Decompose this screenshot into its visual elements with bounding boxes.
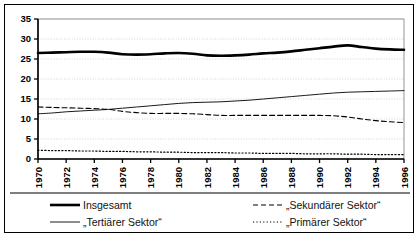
svg-text:1970: 1970	[33, 167, 44, 188]
svg-text:1974: 1974	[89, 166, 100, 188]
svg-text:25: 25	[20, 53, 31, 64]
svg-text:1984: 1984	[230, 166, 241, 188]
legend-label-3: „Primärer Sektor“	[286, 216, 367, 228]
y-axis-tick-labels: 05101520253035	[20, 13, 31, 164]
plot-area-frame	[38, 19, 404, 159]
svg-text:1992: 1992	[342, 167, 353, 188]
svg-text:1976: 1976	[117, 167, 128, 188]
data-series-group	[38, 45, 404, 154]
legend-label-1: „Sekundärer Sektor“	[286, 199, 381, 211]
svg-text:0: 0	[26, 153, 31, 164]
svg-text:1988: 1988	[286, 167, 297, 188]
svg-text:30: 30	[20, 33, 31, 44]
chart-legend: Insgesamt„Sekundärer Sektor“„Tertiärer S…	[10, 193, 410, 228]
svg-text:1994: 1994	[370, 166, 381, 188]
svg-text:20: 20	[20, 73, 31, 84]
legend-label-2: „Tertiärer Sektor“	[83, 216, 162, 228]
svg-text:35: 35	[20, 13, 31, 24]
svg-text:1980: 1980	[173, 167, 184, 188]
svg-text:1978: 1978	[145, 167, 156, 188]
chart-svg: 05101520253035 1970197219741976197819801…	[0, 0, 420, 239]
svg-text:1982: 1982	[202, 167, 213, 188]
gridlines-group	[38, 19, 404, 139]
svg-text:10: 10	[20, 113, 31, 124]
svg-text:1972: 1972	[61, 167, 72, 188]
series-line-3	[38, 150, 404, 154]
svg-text:1986: 1986	[258, 167, 269, 188]
series-line-0	[38, 45, 404, 55]
svg-text:15: 15	[20, 93, 31, 104]
svg-text:1990: 1990	[314, 167, 325, 188]
axis-lines	[38, 19, 404, 159]
svg-text:1996: 1996	[399, 167, 410, 188]
x-axis-tick-labels: 1970197219741976197819801982198419861988…	[33, 166, 410, 188]
svg-text:5: 5	[26, 133, 32, 144]
series-line-1	[38, 91, 404, 114]
line-chart: 05101520253035 1970197219741976197819801…	[0, 0, 420, 239]
series-line-2	[38, 107, 404, 123]
legend-label-0: Insgesamt	[83, 199, 132, 211]
